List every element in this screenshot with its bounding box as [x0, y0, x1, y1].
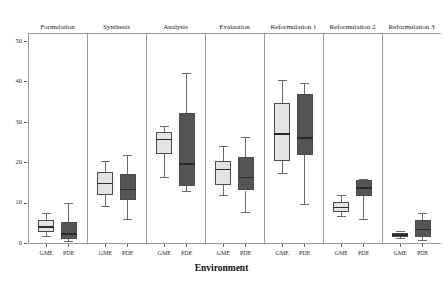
cap-lower	[123, 219, 132, 220]
panel-plot-area	[323, 33, 382, 244]
whisker-upper	[127, 155, 128, 174]
panel-plot-area	[28, 33, 87, 244]
x-tick-label-pde: PDE	[232, 250, 260, 256]
panel-plot-area	[87, 33, 146, 244]
median-line	[415, 229, 431, 230]
box-iqr	[120, 174, 136, 201]
box-plot-pde	[28, 33, 87, 244]
cap-lower	[64, 241, 73, 242]
facet-panel: Analysis	[146, 22, 205, 244]
panel-plot-area	[382, 33, 441, 244]
panel-title: Reformulation 1	[264, 22, 323, 33]
y-tick-mark	[24, 203, 27, 204]
box-plot-pde	[87, 33, 146, 244]
whisker-upper	[245, 137, 246, 157]
x-tick-mark	[341, 244, 342, 247]
y-tick-mark	[24, 122, 27, 123]
panel-plot-area	[264, 33, 323, 244]
y-tick-label: 50	[4, 38, 22, 45]
panel-title: Analysis	[146, 22, 205, 33]
y-tick-mark	[24, 243, 27, 244]
whisker-upper	[422, 213, 423, 220]
median-line	[61, 233, 77, 234]
x-tick-mark	[400, 244, 401, 247]
cap-lower	[241, 212, 250, 213]
cap-upper	[64, 203, 73, 204]
x-tick-mark	[105, 244, 106, 247]
box-plot-pde	[205, 33, 264, 244]
box-iqr	[238, 157, 254, 190]
cap-upper	[241, 137, 250, 138]
x-tick-label-pde: PDE	[55, 250, 83, 256]
panel-title: Synthesis	[87, 22, 146, 33]
cap-lower	[359, 219, 368, 220]
facet-panel: Reformulation 1	[264, 22, 323, 244]
cap-upper	[182, 73, 191, 74]
facet-panel: Reformulation 3	[382, 22, 441, 244]
box-iqr	[179, 113, 195, 187]
median-line	[120, 189, 136, 190]
median-line	[297, 137, 313, 138]
y-tick-mark	[24, 81, 27, 82]
x-axis-rule	[28, 243, 441, 244]
x-tick-label-pde: PDE	[114, 250, 142, 256]
box-iqr	[297, 94, 313, 155]
panel-title: Reformulation 2	[323, 22, 382, 33]
facet-panel: Evaluation	[205, 22, 264, 244]
cap-lower	[182, 191, 191, 192]
panel-plot-area	[205, 33, 264, 244]
y-tick-label: 30	[4, 119, 22, 126]
panel-plot-area	[146, 33, 205, 244]
cap-upper	[123, 155, 132, 156]
box-plot-pde	[382, 33, 441, 244]
whisker-lower	[127, 200, 128, 219]
x-tick-mark	[422, 244, 423, 247]
facet-panel: Synthesis	[87, 22, 146, 244]
x-tick-mark	[127, 244, 128, 247]
boxplot-figure: 01020304050 FormulationSynthesisAnalysis…	[0, 0, 443, 285]
cap-lower	[418, 240, 427, 241]
x-tick-label-pde: PDE	[291, 250, 319, 256]
y-tick-label: 40	[4, 78, 22, 85]
facet-panel: Formulation	[28, 22, 87, 244]
cap-upper	[418, 213, 427, 214]
box-plot-pde	[323, 33, 382, 244]
median-line	[238, 177, 254, 178]
y-tick-label: 20	[4, 159, 22, 166]
panel-title: Reformulation 3	[382, 22, 441, 33]
whisker-upper	[186, 73, 187, 113]
y-tick-mark	[24, 162, 27, 163]
x-axis-title: Environment	[0, 263, 443, 273]
x-tick-label-pde: PDE	[409, 250, 437, 256]
x-tick-label-pde: PDE	[173, 250, 201, 256]
x-tick-mark	[363, 244, 364, 247]
median-line	[179, 163, 195, 164]
y-tick-mark	[24, 41, 27, 42]
x-tick-mark	[304, 244, 305, 247]
y-tick-label: 10	[4, 199, 22, 206]
box-plot-pde	[146, 33, 205, 244]
x-tick-mark	[68, 244, 69, 247]
y-tick-label: 0	[4, 240, 22, 247]
panel-title: Formulation	[28, 22, 87, 33]
panel-title: Evaluation	[205, 22, 264, 33]
cap-upper	[300, 83, 309, 84]
whisker-upper	[304, 83, 305, 94]
whisker-lower	[363, 196, 364, 219]
x-tick-mark	[164, 244, 165, 247]
box-iqr	[61, 222, 77, 239]
box-plot-pde	[264, 33, 323, 244]
x-tick-mark	[46, 244, 47, 247]
whisker-upper	[68, 203, 69, 222]
x-tick-label-pde: PDE	[350, 250, 378, 256]
x-tick-mark	[186, 244, 187, 247]
whisker-lower	[304, 155, 305, 204]
facet-panel: Reformulation 2	[323, 22, 382, 244]
x-tick-mark	[223, 244, 224, 247]
whisker-lower	[245, 191, 246, 213]
x-tick-mark	[245, 244, 246, 247]
median-line	[356, 187, 372, 188]
x-tick-mark	[282, 244, 283, 247]
cap-lower	[300, 204, 309, 205]
